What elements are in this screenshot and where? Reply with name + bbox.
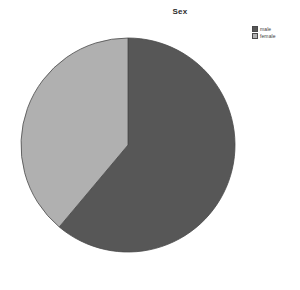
legend-label-female: female — [260, 34, 276, 39]
pie-svg — [20, 37, 236, 253]
legend-swatch-female — [252, 33, 258, 39]
pie-slice-group — [21, 38, 235, 252]
chart-title: Sex — [30, 7, 300, 16]
legend: malefemale — [252, 26, 276, 39]
legend-label-male: male — [260, 27, 271, 32]
legend-swatch-male — [252, 26, 258, 32]
pie-chart: Sex malefemale — [0, 0, 300, 290]
pie-plot-area — [20, 37, 236, 253]
legend-item-male: male — [252, 26, 276, 32]
legend-item-female: female — [252, 33, 276, 39]
